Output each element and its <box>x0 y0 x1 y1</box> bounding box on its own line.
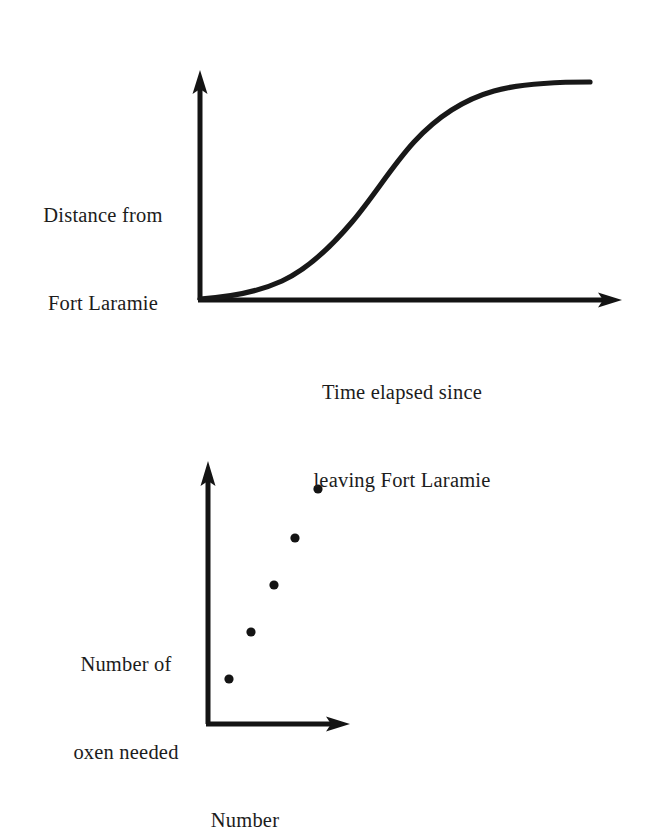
data-point <box>246 627 255 636</box>
top-chart-x-axis <box>198 293 622 308</box>
bottom-chart-x-axis-label-line1: Number <box>165 806 325 835</box>
top-chart-x-axis-label-line1: Time elapsed since <box>278 378 526 407</box>
top-chart-curve <box>200 82 590 299</box>
bottom-chart-x-axis <box>206 717 350 732</box>
data-point <box>224 674 233 683</box>
data-point <box>269 580 278 589</box>
top-chart-y-axis <box>193 70 208 300</box>
top-chart-y-axis-label-line2: Fort Laramie <box>18 289 188 318</box>
bottom-chart-y-axis <box>201 461 216 724</box>
top-chart-x-axis-label: Time elapsed since leaving Fort Laramie <box>278 320 526 553</box>
top-chart-y-axis-label: Distance from Fort Laramie <box>18 143 188 376</box>
bottom-chart-y-axis-label-line1: Number of <box>50 650 202 679</box>
top-chart-y-axis-label-line1: Distance from <box>18 201 188 230</box>
bottom-chart-x-axis-label: Number of wagons <box>165 748 325 839</box>
top-chart-x-axis-label-line2: leaving Fort Laramie <box>278 466 526 495</box>
figure-container: Distance from Fort Laramie Time elapsed … <box>0 0 663 839</box>
